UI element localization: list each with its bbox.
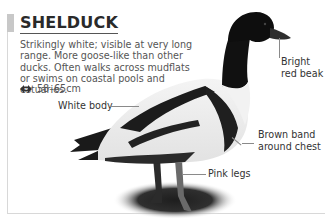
beak-annotation-line1: Bright (281, 56, 323, 68)
eye (264, 23, 266, 25)
body-leader-line (109, 106, 139, 107)
ground-shadow (113, 181, 237, 219)
beak-annotation: Bright red beak (281, 56, 323, 79)
head (228, 12, 274, 42)
legs-leader-line (182, 174, 206, 175)
legs-annotation: Pink legs (208, 168, 251, 180)
chest-annotation-line2: around chest (258, 141, 321, 153)
beak-leader-line (279, 38, 280, 58)
beak-annotation-line2: red beak (281, 68, 323, 80)
chest-annotation-line1: Brown band (258, 129, 321, 141)
chest-leader-line (242, 143, 254, 144)
body-annotation: White body (58, 100, 113, 112)
shelduck-illustration (0, 0, 336, 222)
neck (222, 38, 250, 89)
beak (270, 28, 291, 40)
chest-annotation: Brown band around chest (258, 129, 321, 152)
